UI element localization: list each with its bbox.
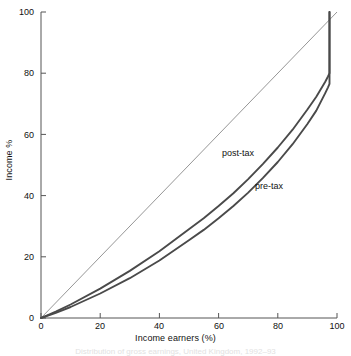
pre-tax-series-label: pre-tax — [255, 181, 283, 191]
y-axis-title: Income % — [4, 125, 14, 195]
x-axis-ticks — [41, 313, 337, 318]
lorenz-curve-figure: 0 20 40 60 80 100 0 20 40 60 80 100 Inco… — [0, 0, 351, 356]
post-tax-curve — [41, 12, 330, 318]
x-tick-label-60: 60 — [204, 321, 234, 331]
y-axis-ticks — [41, 12, 46, 318]
x-tick-label-80: 80 — [263, 321, 293, 331]
figure-caption: Distribution of gross earnings, United K… — [0, 347, 351, 356]
equality-line-series — [41, 12, 337, 318]
y-tick-label-100: 100 — [8, 7, 34, 17]
x-tick-label-0: 0 — [26, 321, 56, 331]
post-tax-series-label: post-tax — [222, 148, 254, 158]
pre-tax-curve — [41, 12, 330, 318]
y-tick-label-80: 80 — [8, 68, 34, 78]
x-tick-label-40: 40 — [144, 321, 174, 331]
y-tick-label-20: 20 — [8, 252, 34, 262]
x-axis-title: Income earners (%) — [0, 333, 351, 343]
plot-canvas — [0, 0, 351, 356]
x-tick-label-20: 20 — [85, 321, 115, 331]
x-tick-label-100: 100 — [322, 321, 351, 331]
